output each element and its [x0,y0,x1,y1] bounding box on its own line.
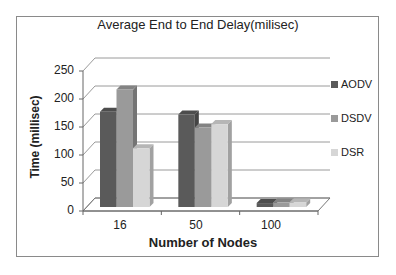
side-wall-gridline [83,142,95,155]
legend-item-dsr: DSR [331,146,364,158]
x-axis-label: Number of Nodes [0,235,396,250]
y-axis-label: Time (millisec) [28,82,42,192]
side-wall-gridline [83,86,95,99]
legend-swatch-aodv [331,81,338,88]
side-wall-gridline [83,170,95,183]
legend-label-dsr: DSR [341,146,364,158]
y-tick-200: 200 [44,91,74,105]
legend-label-dsdv: DSDV [341,112,372,124]
legend-swatch-dsdv [331,115,338,122]
bar-dsdv-50 [195,127,212,207]
bar-aodv-100 [257,203,274,207]
y-tick-150: 150 [44,119,74,133]
bar-dsr-100 [290,203,307,207]
bar-dsdv-16 [117,89,134,207]
bar-side [228,120,232,207]
y-tick-100: 100 [44,147,74,161]
bar-side [150,144,154,207]
y-tick-50: 50 [44,175,74,189]
y-tick-0: 0 [44,203,74,217]
legend-swatch-dsr [331,149,338,156]
legend-label-aodv: AODV [341,78,372,90]
bar-dsdv-100 [273,203,290,207]
plot-area [0,0,396,275]
bar-dsr-50 [211,124,228,207]
side-wall-gridline [83,114,95,127]
legend-item-dsdv: DSDV [331,112,372,124]
side-wall-gridline [83,58,95,71]
x-tick-16: 16 [100,218,140,232]
x-tick-100: 100 [251,218,291,232]
y-tick-250: 250 [44,63,74,77]
bar-dsr-16 [133,148,150,207]
legend-item-aodv: AODV [331,78,372,90]
bar-aodv-50 [178,115,195,207]
bar-aodv-16 [100,112,117,207]
x-tick-50: 50 [176,218,216,232]
